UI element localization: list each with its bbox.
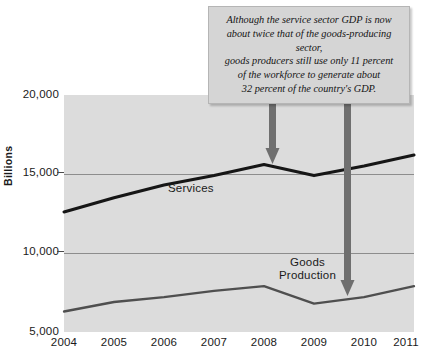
callout-box: Although the service sector GDP is now a… (208, 6, 410, 104)
x-tick-label-2008: 2008 (242, 336, 286, 348)
series-label-goods-line1: Goods (279, 256, 336, 269)
series-label-goods-production: Goods Production (279, 256, 336, 282)
series-label-goods-line2: Production (279, 269, 336, 282)
x-tick-label-2011: 2011 (384, 336, 427, 348)
x-tick-label-2004: 2004 (42, 336, 86, 348)
callout-arrow-goods (341, 94, 355, 296)
series-label-services: Services (168, 182, 214, 195)
x-tick-label-2010: 2010 (342, 336, 386, 348)
x-tick-label-2009: 2009 (292, 336, 336, 348)
callout-text: Although the service sector GDP is now a… (216, 13, 402, 96)
x-tick-label-2006: 2006 (142, 336, 186, 348)
goods-production-line (64, 286, 414, 311)
callout-arrow-services (266, 94, 280, 164)
x-tick-label-2007: 2007 (192, 336, 236, 348)
x-tick-label-2005: 2005 (92, 336, 136, 348)
services-line (64, 155, 414, 212)
chart-figure: Billions 20,000 15,000 10,000 5,000 Serv… (0, 0, 427, 357)
